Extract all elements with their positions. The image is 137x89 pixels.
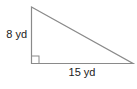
triangle <box>32 7 134 64</box>
height-label: 8 yd <box>6 28 27 40</box>
right-triangle-diagram: 8 yd 15 yd <box>0 0 137 89</box>
right-angle-marker <box>32 56 40 64</box>
base-label: 15 yd <box>69 66 96 78</box>
